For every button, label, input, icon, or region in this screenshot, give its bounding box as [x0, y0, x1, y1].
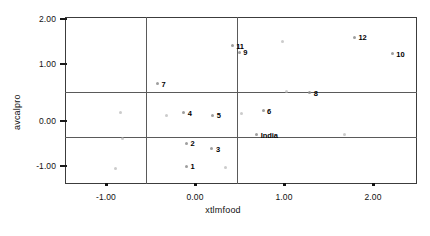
data-point — [262, 109, 265, 112]
data-point — [281, 40, 284, 43]
x-tick-2 — [372, 183, 375, 186]
data-point-label: 11 — [236, 42, 244, 51]
x-tick-neg1 — [105, 183, 108, 186]
y-tick-label-neg1: -1.00 — [6, 161, 56, 171]
scatter-plot-figure: 2.00 1.00 0.00 -1.00 -1.00 0.00 1.00 2.0… — [0, 0, 430, 236]
y-tick-label-1: 1.00 — [6, 59, 56, 69]
x-tick-label-2: 2.00 — [343, 192, 403, 202]
x-tick-label-neg1: -1.00 — [76, 192, 136, 202]
data-point — [119, 111, 122, 114]
y-tick-0 — [60, 120, 67, 122]
data-point — [353, 36, 356, 39]
data-point — [231, 44, 234, 47]
data-point-label: 1 — [190, 162, 194, 171]
x-tick-1 — [283, 183, 286, 186]
data-point — [114, 167, 117, 170]
data-point — [185, 165, 188, 168]
reference-line-h-lower — [65, 137, 417, 138]
y-tick-1 — [60, 63, 67, 65]
data-point-label: 10 — [396, 50, 404, 59]
data-point-label: 8 — [314, 89, 318, 98]
reference-line-h-upper — [65, 92, 417, 93]
data-point — [391, 52, 394, 55]
y-tick-label-2: 2.00 — [6, 14, 56, 24]
data-point-label: 4 — [188, 109, 192, 118]
data-point — [238, 51, 241, 54]
data-point-label: 2 — [190, 139, 194, 148]
data-point — [165, 114, 168, 117]
data-point-label: 12 — [359, 33, 367, 42]
data-point-label: 6 — [267, 107, 271, 116]
data-point-label: India — [261, 131, 278, 140]
y-tick-neg1 — [60, 165, 67, 167]
y-tick-2 — [60, 18, 67, 20]
data-point-label: 7 — [161, 80, 165, 89]
y-axis-title: avcalpro — [12, 94, 22, 130]
x-tick-0 — [194, 183, 197, 186]
x-tick-label-1: 1.00 — [254, 192, 314, 202]
data-point-label: 5 — [217, 111, 221, 120]
x-axis-title: xtlmfood — [178, 205, 268, 215]
data-point — [121, 137, 124, 140]
data-point-label: 3 — [216, 145, 220, 154]
x-tick-label-0: 0.00 — [165, 192, 225, 202]
data-point — [185, 142, 188, 145]
data-point — [224, 166, 227, 169]
reference-line-v-left — [146, 17, 147, 184]
